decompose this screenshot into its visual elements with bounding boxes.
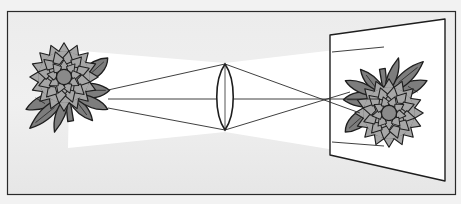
lens-projection-diagram: Convex lens projecting an inverted image… [0, 0, 461, 204]
